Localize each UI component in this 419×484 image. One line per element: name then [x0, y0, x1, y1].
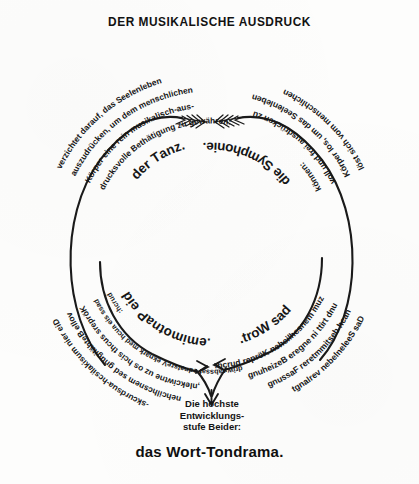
center-label-line: Entwicklungs- — [137, 410, 287, 422]
arc-glyph: s — [209, 368, 213, 375]
result-label: das Wort-Tondrama. — [0, 443, 419, 460]
arc-glyph: w — [198, 117, 205, 126]
arc-glyph: - — [190, 102, 194, 111]
arc-glyph: e — [198, 335, 207, 349]
arc-glyph: . — [202, 140, 207, 154]
arc-glyph: n — [187, 86, 193, 95]
arc-glyph: . — [206, 336, 210, 350]
center-label-line: Die höchste — [137, 398, 287, 410]
center-label: Die höchsteEntwicklungs-stufe Beider: — [137, 398, 287, 433]
musical-expression-diagram-page: DER MUSIKALISCHE AUSDRUCK — [0, 0, 419, 484]
center-label-line: stufe Beider: — [137, 421, 287, 433]
arc-glyph: h — [210, 116, 215, 124]
arc-glyph: d — [237, 365, 243, 373]
arc-glyph: s — [205, 368, 209, 375]
arc-glyph: : — [227, 118, 231, 127]
arc-glyph: , — [197, 382, 200, 391]
arc-glyph: ä — [205, 116, 210, 125]
